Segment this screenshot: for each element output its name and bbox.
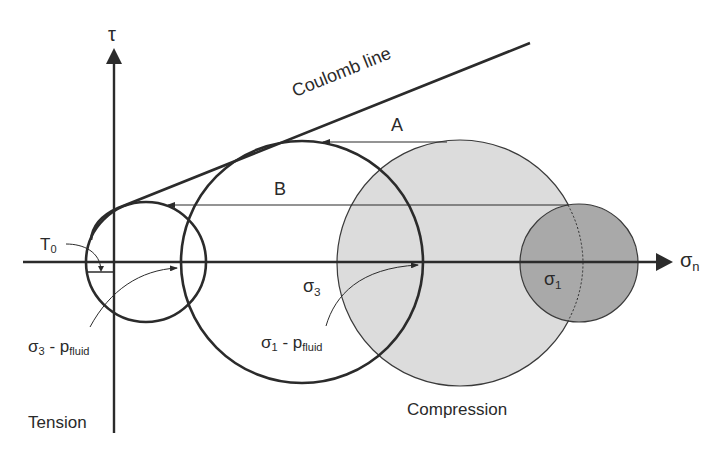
tension-label: Tension [28,414,87,431]
sigma1-label: σ1 [544,270,562,290]
t0-main: T [40,235,50,254]
sigma-n-main: σ [680,249,692,271]
sigma-n-sub: n [692,259,699,274]
compression-label: Compression [407,401,507,418]
sigma3-label: σ3 [303,277,321,297]
sigma1-main: σ [544,269,555,289]
s3pf-sub2: fluid [69,345,89,357]
sigma1-minus-pfluid-label: σ1 - pfluid [261,334,322,353]
sigma3-sub: 3 [314,285,321,298]
sigma-n-axis-label: σn [680,250,700,273]
s3pf-mid: - p [45,337,70,356]
s1pf-main: σ [261,333,272,352]
s1pf-mid: - p [278,333,303,352]
t0-leader-head [98,266,104,272]
sigma3-main: σ [303,276,314,296]
sigma1-sub: 1 [555,278,562,291]
tau-axis-label: τ [108,24,116,44]
s1pf-sub2: fluid [302,341,322,353]
t0-sub: 0 [50,243,56,255]
t0-leader [66,244,101,270]
arrow-b-label: B [274,180,286,198]
s3pf-main: σ [28,337,39,356]
arrow-a-label: A [391,116,403,134]
sigma-n-arrowhead [656,253,673,271]
sigma3-minus-pfluid-label: σ3 - pfluid [28,338,89,357]
tau-arrowhead [106,48,122,64]
t0-label: T0 [40,236,57,255]
